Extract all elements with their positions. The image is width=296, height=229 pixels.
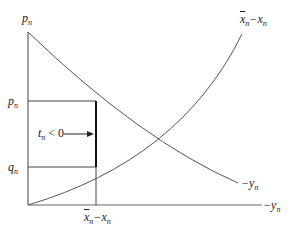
x-marker-label: xn−xn bbox=[84, 211, 111, 226]
diagram-canvas bbox=[0, 0, 296, 229]
falling-curve bbox=[28, 32, 238, 183]
y-axis-label: pn bbox=[22, 12, 32, 27]
q-level-label: qn bbox=[8, 161, 18, 176]
annotation-label: tn < 0 bbox=[38, 127, 64, 142]
rising-curve bbox=[28, 34, 242, 205]
falling-curve-label: −yn bbox=[241, 177, 258, 192]
p-level-label: pn bbox=[8, 95, 18, 110]
rising-curve-label: xn−xn bbox=[240, 13, 267, 28]
x-axis-label: −yn bbox=[263, 199, 280, 214]
arrow-head-icon bbox=[87, 131, 94, 137]
